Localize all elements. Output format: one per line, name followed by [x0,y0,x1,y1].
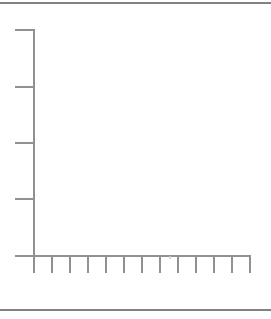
y-axis-tick [15,198,35,200]
page [0,0,271,319]
bottom-rule [0,309,271,311]
y-axis-line [33,29,35,273]
x-axis-tick [195,255,197,273]
x-axis-tick [231,255,233,273]
x-axis-tick [159,255,161,273]
x-axis-tick [51,255,53,273]
x-axis-tick [141,255,143,273]
x-axis-tick [213,255,215,273]
y-axis-tick [15,142,35,144]
x-axis-tick [177,255,179,273]
scan-speck [169,256,171,259]
x-axis-tick [87,255,89,273]
y-axis-tick [15,29,35,31]
x-axis-tick [69,255,71,273]
x-axis-tick [105,255,107,273]
top-rule [0,2,271,4]
x-axis-tick [123,255,125,273]
x-axis-tick [249,255,251,273]
y-axis-tick [15,86,35,88]
